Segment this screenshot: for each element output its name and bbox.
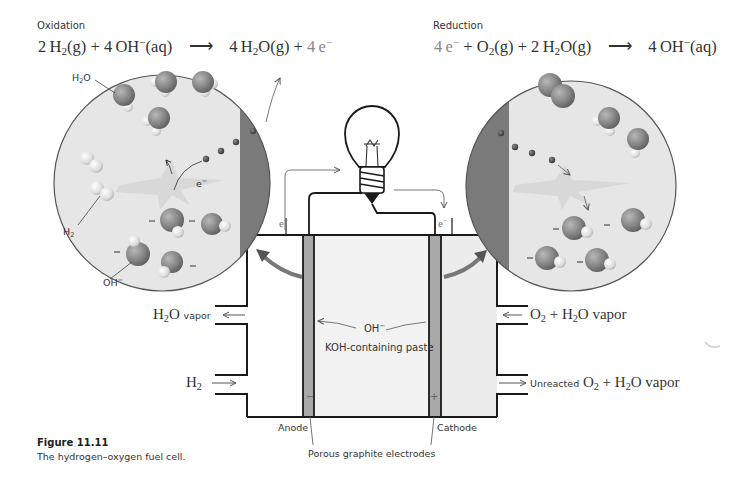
anode-label: Anode <box>278 422 308 433</box>
hydroxide-ion-label: OH− <box>364 322 385 334</box>
oxidation-equation: 2 H2(g) + 4 OH−(aq) ⟶ 4 H2O(g) + 4 e− <box>38 36 332 57</box>
electron-label-left: e− <box>279 216 288 229</box>
electron-flow-arrow-right <box>394 190 444 208</box>
anode-electrode <box>303 235 314 417</box>
cathode-label: Cathode <box>437 422 477 433</box>
electrodes-label: Porous graphite electrodes <box>308 448 435 459</box>
oxidation-product: 4 H2O(g) + 4 e− <box>229 37 332 56</box>
reduction-reactant: 4 e− + O2(g) + 2 H2O(g) <box>434 37 591 56</box>
reduction-equation: 4 e− + O2(g) + 2 H2O(g) ⟶ 4 OH−(aq) <box>434 36 717 57</box>
hydroxide-label: OH− <box>103 276 123 288</box>
cathode-sign: + <box>430 391 438 402</box>
light-bulb-icon <box>344 102 400 204</box>
external-wire-right <box>372 204 435 235</box>
oxidation-label: Oxidation <box>37 20 85 31</box>
figure-number: Figure 11.11 <box>37 437 108 448</box>
external-wire-left <box>309 193 362 235</box>
figure-caption: The hydrogen–oxygen fuel cell. <box>37 451 185 462</box>
anode-magnify-arrow <box>262 255 302 277</box>
reduction-label: Reduction <box>433 20 483 31</box>
electron-label-right: e− <box>438 216 447 229</box>
reduction-product: 4 OH−(aq) <box>648 37 716 56</box>
anode-sign: − <box>306 391 314 402</box>
cathode-electrode <box>429 235 441 417</box>
oxidation-reactant: 2 H2(g) + 4 OH−(aq) <box>38 37 172 56</box>
reaction-arrow: ⟶ <box>189 37 213 56</box>
electron-flow-arrow-left <box>285 170 340 230</box>
hydrogen-inlet-label: H2 <box>186 374 202 392</box>
water-label: H2O <box>72 72 91 85</box>
water-outlet-label: H2O vapor <box>153 306 211 324</box>
oxygen-inlet-label: O2 + H2O vapor <box>530 306 627 324</box>
reaction-arrow: ⟶ <box>608 37 632 56</box>
fuel-cell-diagram <box>0 0 737 479</box>
hydrogen-label: H2 <box>63 226 74 239</box>
unreacted-outlet-label: Unreacted O2 + H2O vapor <box>530 374 680 392</box>
paste-label: KOH-containing paste <box>325 342 434 353</box>
electron-label: e− <box>196 177 207 189</box>
